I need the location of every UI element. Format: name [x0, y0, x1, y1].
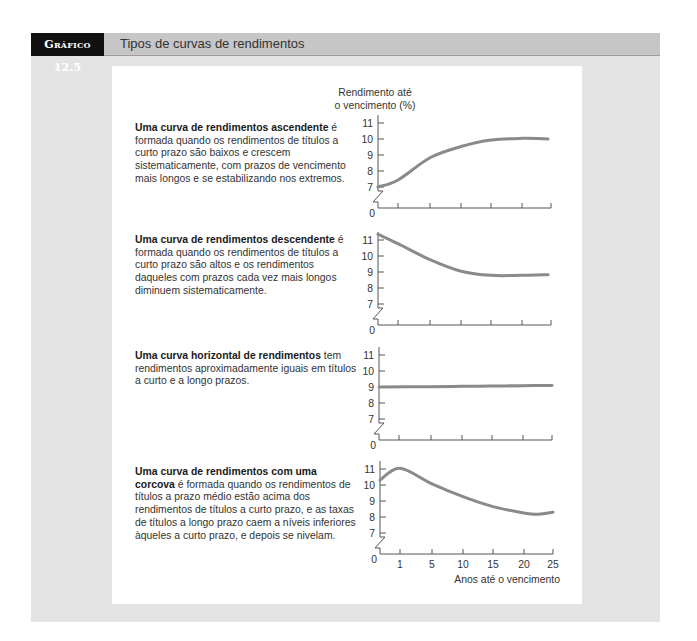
y-tick-label: 8	[368, 398, 374, 409]
y-tick-label: 11	[364, 464, 375, 475]
y-tick-label: 7	[369, 528, 375, 539]
description-heading: Uma curva de rendimentos descendente	[135, 234, 335, 245]
y-tick-label: 8	[367, 283, 373, 294]
y-tick-label: 11	[362, 235, 373, 246]
y-tick-label: 11	[363, 350, 374, 361]
chart-descending-yield-curve: 78910110	[353, 230, 563, 340]
description-flat: Uma curva horizontal de rendimentos tem …	[135, 350, 356, 388]
description-descending: Uma curva de rendimentos descendente é f…	[135, 234, 343, 298]
x-tick-label: 10	[457, 559, 469, 570]
x-tick-label: 15	[487, 559, 499, 570]
axis-lines	[373, 115, 551, 208]
y-origin-label: 0	[370, 440, 376, 451]
y-tick-label: 11	[362, 118, 373, 129]
figure-number-label: Gráfico 12.5	[31, 33, 104, 56]
y-tick-label: 8	[367, 166, 373, 177]
axis-lines	[374, 347, 552, 440]
description-humped: Uma curva de rendimentos com uma corcova…	[135, 466, 356, 542]
y-tick-label: 9	[367, 150, 373, 161]
yield-curve-line	[380, 468, 553, 514]
figure-title: Tipos de curvas de rendimentos	[120, 33, 305, 56]
description-heading: Uma curva de rendimentos ascendente	[135, 122, 328, 133]
yield-curve-line	[378, 138, 548, 187]
description-heading: Uma curva horizontal de rendimentos	[135, 350, 321, 361]
y-tick-label: 10	[361, 251, 373, 262]
x-tick-label: 25	[547, 559, 559, 570]
y-tick-label: 9	[369, 496, 375, 507]
y-tick-label: 8	[369, 512, 375, 523]
y-axis-title-line1: Rendimento até	[315, 86, 435, 99]
yield-curve-line	[378, 234, 548, 275]
y-tick-label: 9	[368, 382, 374, 393]
chart-ascending-yield-curve: 78910110	[353, 113, 563, 223]
axis-lines	[375, 461, 553, 554]
y-axis-title-line2: o vencimento (%)	[315, 99, 435, 112]
chart-flat-yield-curve: 78910110	[354, 345, 564, 455]
x-tick-label: 1	[397, 559, 403, 570]
y-tick-label: 10	[361, 134, 373, 145]
y-tick-label: 7	[367, 299, 373, 310]
y-origin-label: 0	[369, 208, 375, 219]
description-ascending: Uma curva de rendimentos ascendente é fo…	[135, 122, 346, 186]
y-tick-label: 10	[362, 366, 374, 377]
y-origin-label: 0	[371, 554, 377, 565]
chart-humped-yield-curve: 789101101510152025Anos até o vencimento	[355, 459, 565, 594]
figure-header: Gráfico 12.5 Tipos de curvas de rendimen…	[31, 33, 660, 56]
yield-curve-line	[379, 385, 552, 387]
y-tick-label: 10	[363, 480, 375, 491]
y-tick-label: 9	[367, 267, 373, 278]
y-tick-label: 7	[368, 414, 374, 425]
x-tick-label: 20	[518, 559, 530, 570]
y-origin-label: 0	[369, 325, 375, 336]
y-tick-label: 7	[367, 182, 373, 193]
x-tick-label: 5	[429, 559, 435, 570]
x-axis-title: Anos até o vencimento	[454, 574, 560, 585]
y-axis-title: Rendimento até o vencimento (%)	[315, 86, 435, 112]
